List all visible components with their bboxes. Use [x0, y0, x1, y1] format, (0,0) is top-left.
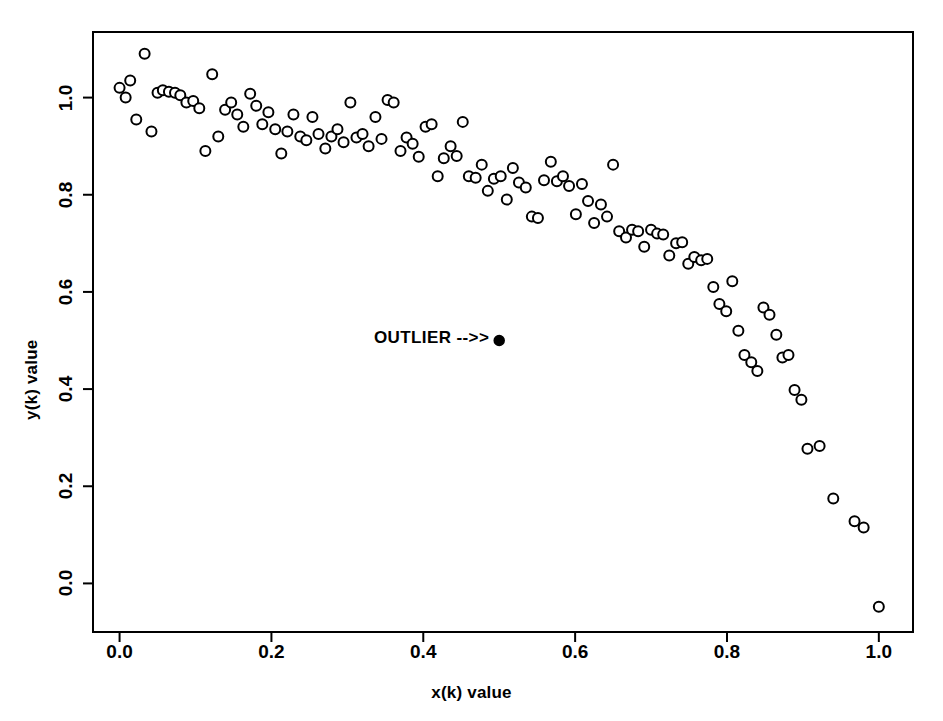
data-point [496, 171, 506, 181]
data-point [783, 350, 793, 360]
x-tick-label: 0.8 [714, 641, 740, 663]
x-tick-label: 1.0 [866, 641, 892, 663]
plot-canvas [0, 0, 943, 721]
data-point [608, 160, 618, 170]
data-point [564, 181, 574, 191]
scatter-plot-figure: x(k) value y(k) value 0.00.20.40.60.81.0… [0, 0, 943, 721]
x-tick-label: 0.2 [258, 641, 284, 663]
y-tick-label: 0.8 [55, 182, 77, 208]
data-point [245, 89, 255, 99]
data-point [125, 76, 135, 86]
data-point [257, 119, 267, 129]
data-point [345, 97, 355, 107]
data-point [339, 137, 349, 147]
data-point [396, 146, 406, 156]
data-point [200, 146, 210, 156]
data-point [521, 182, 531, 192]
data-point [483, 186, 493, 196]
data-point [558, 171, 568, 181]
data-point [702, 254, 712, 264]
y-tick-label: 0.0 [55, 570, 77, 596]
x-axis-tick-marks [120, 632, 879, 642]
data-point [815, 441, 825, 451]
data-point [276, 148, 286, 158]
data-point [446, 141, 456, 151]
data-point [358, 129, 368, 139]
data-point [828, 493, 838, 503]
data-point [121, 93, 131, 103]
data-point [546, 157, 556, 167]
data-point [307, 112, 317, 122]
data-point [765, 310, 775, 320]
data-point [364, 141, 374, 151]
data-point [539, 175, 549, 185]
data-point [433, 171, 443, 181]
data-point [251, 101, 261, 111]
data-point [377, 134, 387, 144]
data-point [633, 226, 643, 236]
data-point [439, 153, 449, 163]
data-point [502, 195, 512, 205]
data-point [571, 209, 581, 219]
data-point [370, 112, 380, 122]
data-point [596, 199, 606, 209]
data-point [664, 250, 674, 260]
data-point [508, 163, 518, 173]
data-point [332, 124, 342, 134]
data-points-group [115, 49, 884, 612]
data-point [226, 97, 236, 107]
data-point [452, 151, 462, 161]
plot-frame [93, 32, 913, 632]
data-point [602, 212, 612, 222]
data-point [850, 516, 860, 526]
data-point [320, 144, 330, 154]
y-tick-label: 0.4 [55, 376, 77, 402]
data-point [733, 326, 743, 336]
data-point [471, 173, 481, 183]
x-tick-label: 0.6 [562, 641, 588, 663]
x-tick-label: 0.0 [106, 641, 132, 663]
data-point [458, 117, 468, 127]
data-point [577, 179, 587, 189]
data-point [796, 395, 806, 405]
data-point [238, 122, 248, 132]
data-point [270, 124, 280, 134]
data-point [213, 131, 223, 141]
data-point [708, 282, 718, 292]
data-point [677, 237, 687, 247]
outlier-data-point [494, 336, 504, 346]
outlier-point-group [494, 336, 504, 346]
data-point [408, 139, 418, 149]
data-point [477, 160, 487, 170]
data-point [802, 444, 812, 454]
data-point [140, 49, 150, 59]
data-point [314, 129, 324, 139]
data-point [589, 218, 599, 228]
y-tick-label: 0.6 [55, 279, 77, 305]
data-point [389, 97, 399, 107]
data-point [874, 602, 884, 612]
data-point [721, 306, 731, 316]
data-point [658, 230, 668, 240]
data-point [790, 385, 800, 395]
data-point [859, 523, 869, 533]
data-point [771, 330, 781, 340]
data-point [301, 135, 311, 145]
data-point [146, 127, 156, 137]
data-point [232, 110, 242, 120]
data-point [131, 114, 141, 124]
data-point [427, 119, 437, 129]
data-point [727, 276, 737, 286]
y-axis-title: y(k) value [22, 260, 44, 420]
x-axis-title: x(k) value [0, 683, 943, 703]
y-tick-label: 0.2 [55, 473, 77, 499]
data-point [194, 103, 204, 113]
data-point [263, 107, 273, 117]
y-tick-label: 1.0 [55, 84, 77, 110]
data-point [414, 152, 424, 162]
data-point [207, 69, 217, 79]
x-tick-label: 0.4 [410, 641, 436, 663]
data-point [115, 83, 125, 93]
data-point [288, 110, 298, 120]
data-point [583, 196, 593, 206]
